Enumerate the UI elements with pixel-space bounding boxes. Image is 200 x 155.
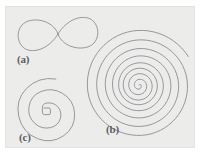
curve-label-c: (c) [19,132,31,143]
curve-b-logarithmic-spiral [87,30,188,135]
curve-label-a: (a) [17,54,29,65]
curve-a-lemniscate [18,17,98,50]
curves-panel: (a) (b) (c) [5,6,195,148]
figure-root: (a) (b) (c) [0,0,200,155]
curves-canvas [6,7,195,148]
curve-label-b: (b) [106,124,119,135]
